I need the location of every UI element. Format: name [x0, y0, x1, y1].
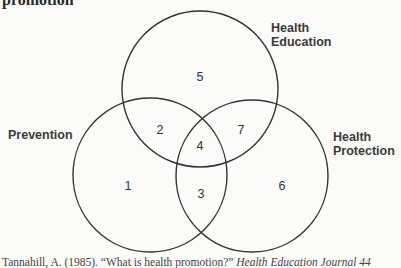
- region-6: 6: [279, 179, 286, 193]
- label-prevention: Prevention: [8, 128, 73, 142]
- circle-prevention: [73, 98, 227, 252]
- region-2: 2: [157, 123, 164, 137]
- region-4: 4: [197, 139, 204, 153]
- region-1: 1: [125, 179, 132, 193]
- region-5: 5: [197, 70, 204, 84]
- region-3: 3: [198, 187, 205, 201]
- region-7: 7: [238, 123, 245, 137]
- circle-health-protection: [176, 100, 328, 252]
- citation-caption: Tannahill, A. (1985). “What is health pr…: [2, 256, 371, 268]
- label-health-education: Health Education: [271, 21, 331, 49]
- label-health-protection: Health Protection: [333, 130, 395, 158]
